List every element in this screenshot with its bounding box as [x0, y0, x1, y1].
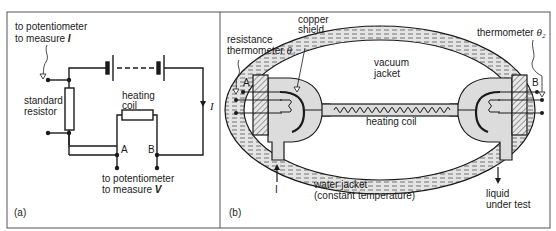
pointer-arrow-icon	[40, 74, 46, 79]
liquid-under-test-line1: liquid	[486, 188, 509, 199]
current-symbol: I	[209, 100, 215, 112]
pointer-line	[43, 45, 47, 75]
pot-V-label-line2: to measure V	[102, 184, 163, 195]
pot-V-label-line1: to potentiometer	[102, 173, 175, 184]
panel-a-tag: (a)	[14, 207, 26, 218]
water-jacket-line2: (constant temperature)	[314, 190, 415, 201]
standard-resistor-line1: standard	[24, 95, 63, 106]
copper-shield-line2: shield	[298, 24, 324, 35]
standard-resistor-line2: resistor	[24, 106, 57, 117]
terminal-b-label-b: B	[532, 77, 539, 88]
terminal-b-label: B	[148, 144, 155, 155]
thermometer-2-label: thermometer θ₂	[477, 26, 546, 38]
resistance-thermometer-line2: thermometer θ₁	[227, 44, 296, 56]
vacuum-jacket-line1: vacuum	[374, 57, 409, 68]
vacuum-jacket-line2: jacket	[373, 68, 400, 79]
pot-I-label-line2: to measure I	[15, 33, 71, 44]
terminal-a-label-b: A	[243, 77, 250, 88]
inflow-symbol: I	[275, 184, 278, 195]
resistance-thermometer-line1: resistance	[227, 34, 273, 45]
liquid-under-test-line2: under test	[486, 199, 531, 210]
panel-b-tag: (b)	[229, 207, 241, 218]
terminal-a-label: A	[121, 144, 128, 155]
heating-coil-line2: coil	[122, 100, 137, 111]
heating-coil-label: heating coil	[366, 116, 417, 127]
pot-I-label-line1: to potentiometer	[15, 21, 88, 32]
water-jacket-line1: water jacket	[313, 179, 368, 190]
calorimeter-figure: to potentiometer to measure I standard r…	[0, 0, 556, 231]
